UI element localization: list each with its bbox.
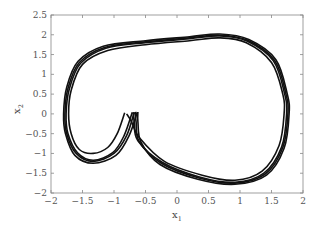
phase-portrait-chart: −2−1.5−1−0.500.511.52 −2−1.5−1−0.500.511… bbox=[0, 0, 323, 232]
y-tick-label: 2.5 bbox=[33, 10, 48, 20]
x-axis-ticks: −2−1.5−1−0.500.511.52 bbox=[44, 15, 306, 206]
trajectory-line bbox=[64, 34, 290, 184]
x-tick-label: 2 bbox=[300, 196, 306, 206]
y-axis-label: x2 bbox=[11, 104, 25, 114]
y-tick-label: 0 bbox=[41, 109, 47, 119]
x-tick-label: −0.5 bbox=[135, 196, 157, 206]
x-tick-label: 1 bbox=[237, 196, 243, 206]
trajectory-line bbox=[65, 35, 288, 183]
x-tick-label: 1.5 bbox=[264, 196, 279, 206]
trajectory-curves bbox=[64, 34, 290, 184]
y-tick-label: 1.5 bbox=[33, 50, 48, 60]
y-tick-label: 0.5 bbox=[33, 89, 48, 99]
x-tick-label: −1 bbox=[107, 196, 120, 206]
x-tick-label: 0.5 bbox=[201, 196, 216, 206]
y-tick-label: −1 bbox=[34, 148, 47, 158]
y-tick-label: 2 bbox=[41, 30, 47, 40]
y-tick-label: −0.5 bbox=[25, 129, 47, 139]
y-tick-label: −2 bbox=[34, 188, 47, 198]
x-axis-label: x1 bbox=[172, 209, 182, 223]
x-tick-label: −1.5 bbox=[72, 196, 94, 206]
x-tick-label: 0 bbox=[174, 196, 180, 206]
y-tick-label: 1 bbox=[41, 69, 47, 79]
y-tick-label: −1.5 bbox=[25, 168, 47, 178]
